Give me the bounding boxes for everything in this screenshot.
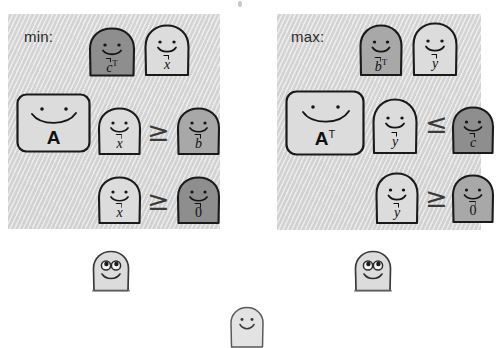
blob-zero-min[interactable]: 0 [175, 175, 222, 225]
relation-geq-nonneg-max: ≥ [425, 184, 448, 211]
blob-y-constraint[interactable]: y [370, 97, 420, 155]
character-bottom-watcher[interactable] [228, 305, 266, 348]
blob-zero-max[interactable]: 0 [450, 173, 496, 224]
matbox-A[interactable]: A [15, 92, 92, 154]
relation-geq-nonneg: ≥ [147, 187, 170, 214]
blob-b-transpose[interactable]: bT [357, 23, 405, 77]
blob-y-objective[interactable]: y [410, 21, 460, 77]
blob-x-constraint[interactable]: x [96, 106, 143, 156]
character-right-watcher[interactable] [352, 249, 394, 293]
relation-geq-constraint: ≥ [147, 118, 170, 145]
blob-c[interactable]: c [450, 105, 496, 155]
stray-speck [238, 1, 242, 7]
blob-c-transpose[interactable]: cT [87, 26, 137, 77]
panel-min-label: min: [24, 28, 53, 45]
matbox-A-transpose[interactable]: AT [284, 89, 366, 157]
panel-max: max: bT y [277, 14, 481, 230]
panel-min: min: cT x [8, 14, 220, 229]
blob-x-nonneg[interactable]: x [96, 175, 143, 225]
blob-y-nonneg[interactable]: y [373, 171, 421, 225]
blob-x-objective[interactable]: x [142, 23, 192, 77]
relation-leq-constraint: ≤ [425, 110, 448, 137]
panel-max-label: max: [291, 28, 324, 45]
blob-b[interactable]: b [175, 106, 222, 156]
character-left-watcher[interactable] [90, 249, 132, 293]
